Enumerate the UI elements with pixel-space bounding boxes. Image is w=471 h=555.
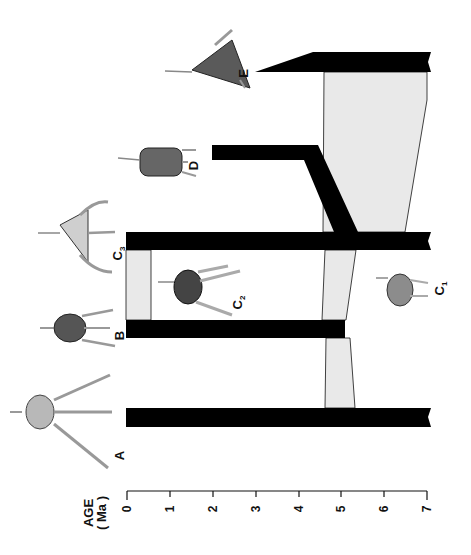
label-B: B <box>112 329 127 343</box>
bar-B <box>126 320 345 338</box>
tick-0: 0 <box>120 503 134 515</box>
tick-1: 1 <box>163 503 177 515</box>
tick-5: 5 <box>334 503 348 515</box>
label-A: A <box>112 449 127 463</box>
specimen-B-icon <box>40 310 115 346</box>
tick-3: 3 <box>249 503 263 515</box>
age-axis <box>127 491 427 500</box>
specimen-A-icon <box>10 375 112 468</box>
label-C2: C2 <box>230 293 247 313</box>
bar-C3 <box>126 232 431 250</box>
specimen-D-icon <box>118 148 196 176</box>
axis-title: AGE ( Ma ) <box>82 488 108 538</box>
specimen-C2-icon <box>158 266 240 315</box>
tick-6: 6 <box>377 503 391 515</box>
tick-2: 2 <box>206 503 220 515</box>
specimen-C1-icon <box>376 274 428 306</box>
axis-title-unit: ( Ma ) <box>95 488 108 538</box>
label-D: D <box>186 159 201 173</box>
bar-A <box>126 408 431 427</box>
label-C3: C3 <box>110 244 127 264</box>
label-C1: C1 <box>432 279 449 299</box>
tick-7: 7 <box>420 503 434 515</box>
label-E: E <box>236 67 251 81</box>
tick-4: 4 <box>292 503 306 515</box>
bar-E <box>255 52 431 72</box>
figure-canvas <box>0 0 471 555</box>
specimen-C3-icon <box>38 202 115 272</box>
